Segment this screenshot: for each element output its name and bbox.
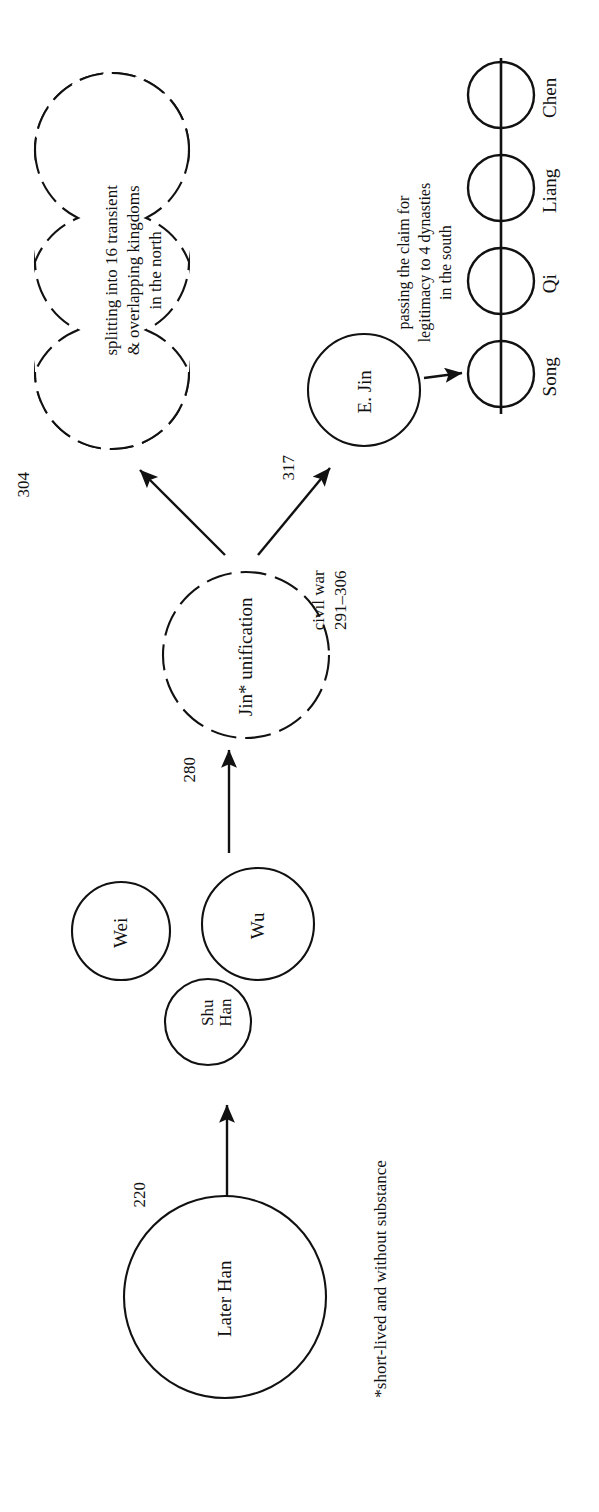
year-label-280: 280 [180, 740, 199, 800]
annotation-civil-war-line2: 291–306 [331, 547, 351, 653]
node-wei-label: Wei [110, 903, 132, 963]
annotation-legitimacy-line1: passing the claim for [394, 173, 413, 353]
year-label-304: 304 [14, 455, 33, 515]
node-sixteen-kingdoms-line2: & overlapping kingdoms [124, 150, 145, 390]
node-later-han-label: Later Han [214, 1239, 236, 1359]
year-label-317: 317 [279, 438, 298, 498]
node-e-jin-label: E. Jin [354, 352, 376, 432]
node-sixteen-kingdoms-line1: splitting into 16 transient [102, 150, 123, 390]
diagram-canvas [0, 0, 599, 1512]
year-label-220: 220 [130, 1165, 149, 1225]
annotation-civil-war-line1: civil war [309, 547, 329, 653]
node-wu-label: Wu [247, 896, 269, 956]
node-shu-han-label-line2: Han [216, 981, 235, 1045]
edge-e-jin-to-song [424, 373, 462, 378]
node-chen-label: Chen [539, 58, 561, 138]
node-sixteen-kingdoms-line3: in the north [146, 150, 167, 390]
node-song-label: Song [539, 337, 561, 417]
annotation-legitimacy-line2: legitimacy to 4 dynasties [415, 173, 434, 353]
dynastic-succession-diagram: Later Han 220 Wei Shu Han Wu Jin* unific… [0, 0, 599, 1512]
node-shu-han-label-line1: Shu [198, 981, 217, 1045]
edge-jin-to-sixteen-kingdoms [140, 470, 225, 555]
node-liang-label: Liang [539, 151, 561, 231]
annotation-legitimacy-line3: in the south [436, 173, 455, 353]
node-jin-label: Jin* unification [235, 577, 257, 737]
footnote-text: *short-lived and without substance [371, 1098, 390, 1398]
node-qi-label: Qi [539, 244, 561, 324]
